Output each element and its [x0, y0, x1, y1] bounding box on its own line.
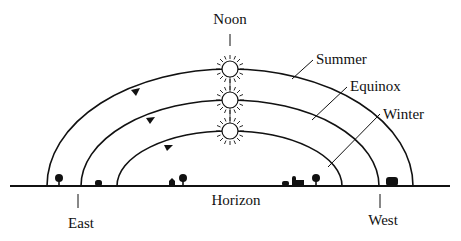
tree-icon	[179, 174, 187, 186]
winter-arrow-icon	[164, 145, 173, 151]
house-icon	[169, 178, 175, 186]
bush-icon	[282, 181, 289, 186]
winter-label: Winter	[383, 106, 424, 122]
farm-icon	[292, 176, 304, 186]
bush-icon	[386, 177, 398, 186]
tree-icon	[312, 174, 320, 186]
tree-icon	[55, 174, 63, 186]
summer-arrow-icon	[131, 88, 140, 96]
equinox-arrow-icon	[146, 117, 155, 124]
horizon-label: Horizon	[211, 192, 261, 208]
east-label: East	[68, 215, 95, 231]
summer-label: Summer	[316, 51, 367, 67]
sun-path-diagram: Noon Summer Equinox Winter Horizon East …	[0, 0, 461, 241]
west-label: West	[368, 212, 398, 228]
noon-label: Noon	[213, 11, 247, 27]
bush-icon	[95, 180, 102, 186]
equinox-label: Equinox	[350, 78, 401, 94]
